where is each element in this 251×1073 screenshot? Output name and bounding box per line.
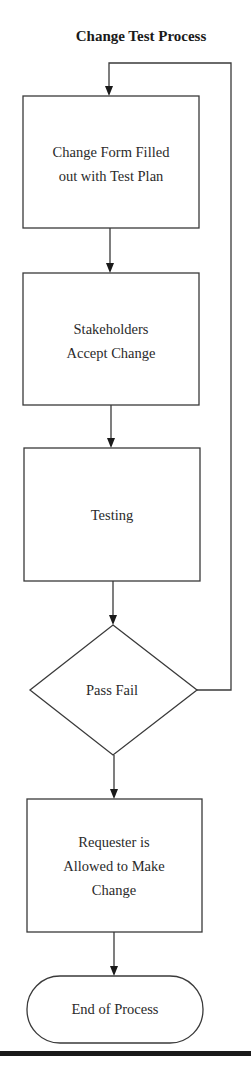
terminal-end-of-process: End of Process bbox=[27, 976, 203, 1043]
decision-pass-fail: Pass Fail bbox=[30, 625, 197, 755]
node-label: Allowed to Make bbox=[63, 858, 164, 874]
node-label: End of Process bbox=[72, 1001, 159, 1017]
arrowhead-icon bbox=[107, 438, 115, 448]
node-label: Accept Change bbox=[67, 345, 156, 361]
arrowhead-icon bbox=[110, 789, 118, 799]
process-box-change-form: Change Form Filled out with Test Plan bbox=[23, 96, 199, 228]
arrowhead-icon bbox=[110, 966, 118, 976]
process-box-testing: Testing bbox=[24, 448, 200, 581]
node-label: out with Test Plan bbox=[59, 168, 164, 184]
node-label: Testing bbox=[91, 507, 133, 523]
node-label: Change Form Filled bbox=[53, 144, 171, 160]
node-label: Stakeholders bbox=[74, 321, 149, 337]
diagram-title: Change Test Process bbox=[76, 28, 207, 44]
arrowhead-icon bbox=[109, 615, 117, 625]
arrowhead-icon bbox=[106, 263, 114, 273]
bottom-rule bbox=[0, 1051, 251, 1056]
flowchart: Change Test Process Change Form Filled o… bbox=[0, 0, 251, 1073]
node-label: Pass Fail bbox=[86, 682, 138, 698]
arrowhead-icon bbox=[105, 86, 113, 96]
node-label: Requester is bbox=[78, 834, 150, 850]
process-box-requester: Requester is Allowed to Make Change bbox=[27, 799, 202, 932]
node-label: Change bbox=[92, 882, 136, 898]
process-box-stakeholders: Stakeholders Accept Change bbox=[23, 273, 199, 405]
